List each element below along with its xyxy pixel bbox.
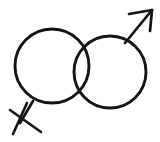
gender-symbol-canvas: combined gender symbol Two overlapping h… (0, 0, 160, 142)
gender-symbol-figure: combined gender symbol Two overlapping h… (0, 0, 160, 142)
